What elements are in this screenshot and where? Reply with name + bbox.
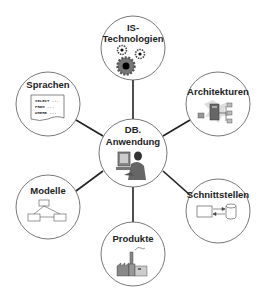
connector-modelle xyxy=(76,171,103,191)
center-node-db-anwendung[interactable]: DB. Anwendung xyxy=(99,119,167,187)
svg-text:WHERE ...: WHERE ... xyxy=(35,111,57,115)
node-label-line2: Technologien xyxy=(102,33,163,44)
node-is-technologien[interactable]: IS- Technologien xyxy=(101,16,165,80)
center-label-line2: Anwendung xyxy=(106,136,161,147)
connector-sprachen xyxy=(76,120,103,136)
sql-document-icon: SELECT ... FROM ... WHERE ... xyxy=(31,95,64,121)
node-label: Produkte xyxy=(112,233,153,244)
node-label: Schnittstellen xyxy=(187,189,249,200)
node-label-line1: IS- xyxy=(127,22,139,33)
svg-text:FROM ...: FROM ... xyxy=(35,105,54,109)
node-label: Modelle xyxy=(30,185,65,196)
db-application-hub-diagram: IS- Technologien Sprachen SELECT ... FRO… xyxy=(0,0,266,305)
node-modelle[interactable]: Modelle xyxy=(16,175,80,239)
node-label: Architekturen xyxy=(187,86,249,97)
node-produkte[interactable]: Produkte xyxy=(101,222,165,286)
node-sprachen[interactable]: Sprachen SELECT ... FROM ... WHERE ... xyxy=(16,72,80,136)
center-label-line1: DB. xyxy=(125,124,141,135)
node-label: Sprachen xyxy=(26,79,69,90)
node-schnittstellen[interactable]: Schnittstellen xyxy=(186,179,250,243)
connector-architekturen xyxy=(163,120,190,136)
svg-text:SELECT ...: SELECT ... xyxy=(35,99,59,103)
node-architekturen[interactable]: Architekturen xyxy=(186,72,250,136)
